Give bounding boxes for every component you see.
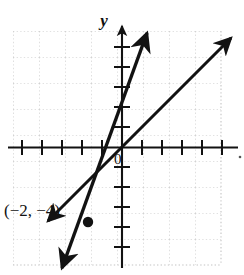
coordinate-plane-figure: y 0 (−2, −4)	[0, 0, 244, 275]
y-axis-label: y	[98, 11, 108, 30]
graph-canvas: y 0 (−2, −4)	[0, 0, 244, 275]
point-coordinate-label: (−2, −4)	[4, 201, 60, 220]
intersection-point-marker	[83, 217, 93, 227]
origin-label: 0	[114, 151, 122, 167]
